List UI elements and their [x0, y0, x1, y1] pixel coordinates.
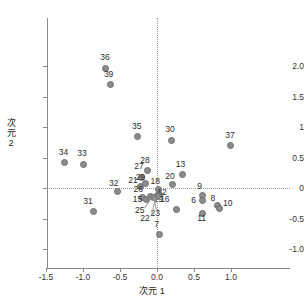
y-tick-mark: [43, 97, 47, 98]
data-point-marker[interactable]: [80, 161, 87, 168]
y-tick-label: 1: [266, 123, 304, 132]
horizontal-zero-reference-line: [47, 188, 290, 189]
data-point-marker[interactable]: [156, 231, 163, 238]
data-point-marker[interactable]: [227, 142, 234, 149]
data-point-marker[interactable]: [173, 206, 180, 213]
y-tick-mark: [43, 219, 47, 220]
data-point-label: 11: [197, 214, 206, 223]
data-point-label: 31: [83, 197, 92, 206]
data-point-label: 32: [109, 179, 118, 188]
y-tick-label: -1.0: [266, 245, 304, 254]
data-point-marker[interactable]: [168, 137, 175, 144]
data-point-label: 26: [134, 185, 143, 194]
data-point-label: 13: [176, 160, 185, 169]
data-point-label: 7: [154, 220, 159, 229]
data-point-marker[interactable]: [114, 188, 121, 195]
y-tick-mark: [43, 188, 47, 189]
x-tick-label: -1.0: [63, 273, 103, 282]
data-point-label: 10: [223, 199, 232, 208]
y-tick-label: -0.5: [266, 215, 304, 224]
data-point-label: 15: [133, 195, 142, 204]
data-point-label: 8: [210, 194, 215, 203]
data-point-label: 21: [128, 176, 137, 185]
x-tick-label: 0.0: [137, 273, 177, 282]
data-point-marker[interactable]: [90, 208, 97, 215]
data-point-label: 16: [160, 195, 169, 204]
y-tick-label: 0: [266, 184, 304, 193]
y-tick-label: 2.0: [266, 62, 304, 71]
data-point-label: 35: [132, 122, 141, 131]
y-axis-spine: [47, 18, 48, 269]
data-point-label: 22: [140, 214, 149, 223]
x-tick-label: 1.0: [211, 273, 251, 282]
data-point-label: 30: [165, 125, 174, 134]
y-tick-mark: [43, 66, 47, 67]
data-point-label: 36: [100, 53, 109, 62]
data-point-label: 6: [191, 196, 196, 205]
data-point-label: 20: [165, 172, 174, 181]
x-tick-label: -1.5: [26, 273, 66, 282]
x-axis-title: 次元 1: [0, 284, 304, 297]
data-point-marker[interactable]: [134, 133, 141, 140]
data-point-label: 9: [197, 182, 202, 191]
data-point-marker[interactable]: [199, 197, 206, 204]
data-point-label: 37: [225, 131, 234, 140]
data-point-marker[interactable]: [107, 81, 114, 88]
data-point-label: 33: [77, 149, 86, 158]
y-tick-mark: [43, 249, 47, 250]
y-axis-title: 次元 2: [4, 118, 18, 148]
y-tick-label: 0.5: [266, 154, 304, 163]
y-tick-mark: [43, 127, 47, 128]
x-tick-label: 0.5: [174, 273, 214, 282]
x-tick-label: -0.5: [100, 273, 140, 282]
y-tick-mark: [43, 158, 47, 159]
scatter-plot: 2.01.510.50-0.5-1.0 -1.5-1.0-0.50.00.51.…: [0, 0, 304, 298]
data-point-label: 34: [59, 148, 68, 157]
data-point-label: 39: [104, 70, 113, 79]
y-tick-label: 1.5: [266, 93, 304, 102]
data-point-marker[interactable]: [179, 171, 186, 178]
data-point-label: 27: [134, 162, 143, 171]
data-point-label: 18: [151, 177, 160, 186]
data-point-marker[interactable]: [61, 159, 68, 166]
